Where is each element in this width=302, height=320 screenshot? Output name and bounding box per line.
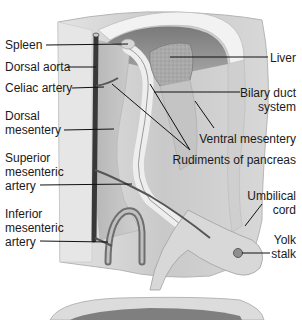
- label-liver: Liver: [270, 51, 296, 65]
- yolk-stalk-shape: [234, 249, 243, 258]
- label-biliary-line2: system: [258, 100, 296, 114]
- label-spleen: Spleen: [5, 38, 42, 52]
- label-rudiments-of-pancreas: Rudiments of pancreas: [173, 153, 296, 167]
- label-dorsal-mesentery-line1: Dorsal: [5, 109, 40, 123]
- label-inferior-mesenteric-line3: artery: [5, 235, 36, 249]
- label-inferior-mesenteric-line1: Inferior: [5, 207, 42, 221]
- label-umbilical-line1: Umbilical: [247, 189, 296, 203]
- label-dorsal-mesentery-line2: mesentery: [5, 123, 61, 137]
- label-umbilical-line2: cord: [273, 203, 296, 217]
- label-superior-mesenteric-line1: Superior: [5, 151, 50, 165]
- anatomy-diagram: Spleen Dorsal aorta Celiac artery Dorsal…: [0, 0, 302, 320]
- label-ventral-mesentery: Ventral mesentery: [199, 132, 296, 146]
- label-biliary-line1: Bilary duct: [240, 86, 296, 100]
- label-yolk-line1: Yolk: [274, 233, 296, 247]
- label-inferior-mesenteric-line2: mesenteric: [5, 221, 64, 235]
- label-superior-mesenteric-line3: artery: [5, 179, 36, 193]
- label-dorsal-aorta: Dorsal aorta: [5, 60, 70, 74]
- liver-shape: [150, 43, 193, 86]
- label-celiac-artery: Celiac artery: [5, 81, 72, 95]
- label-yolk-line2: stalk: [271, 247, 296, 261]
- label-superior-mesenteric-line2: mesenteric: [5, 165, 64, 179]
